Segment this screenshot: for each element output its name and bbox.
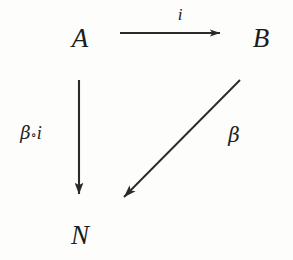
edge-label-i: i [178, 6, 183, 23]
commutative-diagram: A B N i β∘i β [0, 0, 293, 260]
edge-label-beta-compose-i: β∘i [20, 124, 42, 142]
i-glyph: i [37, 123, 42, 143]
node-n: N [71, 222, 89, 249]
beta-glyph: β [20, 122, 30, 143]
beta-glyph: β [228, 123, 240, 147]
edge-label-beta: β [228, 125, 240, 145]
node-a: A [72, 25, 89, 52]
edge-b-to-n-line [124, 80, 240, 197]
arrow-layer [0, 0, 293, 260]
node-b: B [253, 25, 270, 52]
